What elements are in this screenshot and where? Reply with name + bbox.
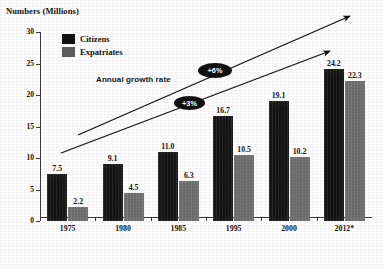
growth-rate-badge-lower: +3% bbox=[174, 96, 205, 110]
growth-rate-caption: Annual growth rate bbox=[96, 75, 171, 84]
chart-figure: Numbers (Millions) 051015202530 19751980… bbox=[0, 0, 384, 268]
growth-rate-badge-upper: +6% bbox=[198, 63, 232, 78]
trend-arrows bbox=[0, 0, 384, 268]
